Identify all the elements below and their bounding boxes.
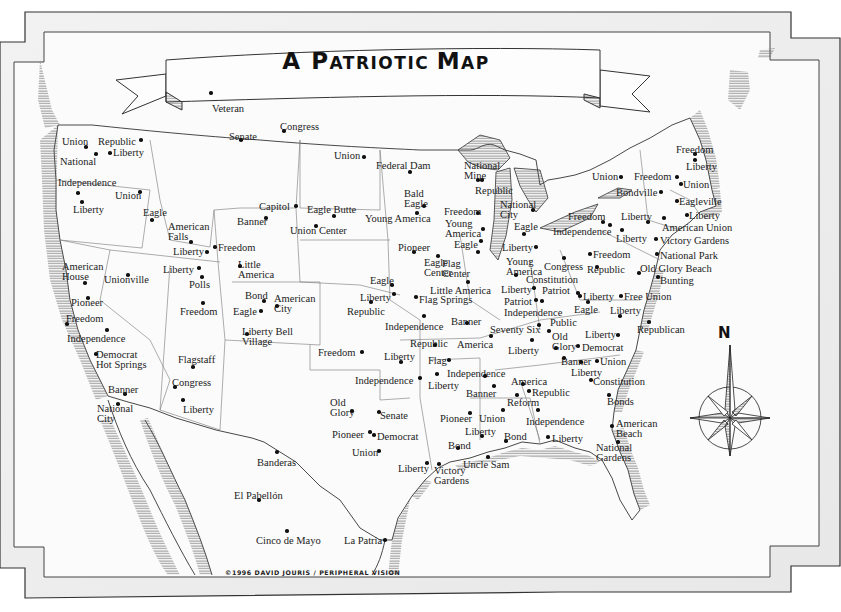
place-label: Independence: [58, 178, 116, 188]
city-dot-icon: [685, 213, 689, 217]
place-label: Young America: [365, 214, 431, 224]
city-dot-icon: [94, 152, 98, 156]
place-label: Polls: [189, 280, 210, 290]
place-label: Independence: [526, 417, 584, 427]
city-dot-icon: [181, 398, 185, 402]
place-label: Liberty: [73, 205, 104, 215]
place-label: Flag: [428, 356, 447, 366]
city-dot-icon: [465, 321, 469, 325]
city-dot-icon: [94, 352, 98, 356]
city-dot-icon: [377, 410, 381, 414]
compass-north-label: N: [718, 324, 731, 342]
city-dot-icon: [422, 204, 426, 208]
place-label: Independence: [447, 369, 505, 379]
city-dot-icon: [610, 424, 614, 428]
place-label: American City: [274, 294, 315, 314]
city-dot-icon: [264, 216, 268, 220]
city-dot-icon: [522, 232, 526, 236]
place-label: Seventy Six: [490, 325, 540, 335]
city-dot-icon: [418, 376, 422, 380]
city-dot-icon: [201, 301, 205, 305]
city-dot-icon: [693, 152, 697, 156]
city-dot-icon: [447, 358, 451, 362]
city-dot-icon: [189, 240, 193, 244]
place-label: Republic: [475, 186, 513, 196]
place-label: Freedom: [66, 314, 103, 324]
city-dot-icon: [285, 529, 289, 533]
place-label: Eagle: [143, 208, 167, 218]
city-dot-icon: [659, 190, 663, 194]
city-dot-icon: [501, 408, 505, 412]
city-dot-icon: [245, 332, 249, 336]
city-dot-icon: [489, 334, 493, 338]
city-dot-icon: [654, 237, 658, 241]
city-dot-icon: [619, 294, 623, 298]
city-dot-icon: [408, 170, 412, 174]
place-label: Liberty: [689, 211, 720, 221]
place-label: National: [60, 157, 96, 167]
place-label: Union: [334, 151, 360, 161]
city-dot-icon: [601, 220, 605, 224]
place-label: Pioneer: [332, 430, 364, 440]
city-dot-icon: [435, 372, 439, 376]
place-label: Union: [352, 448, 378, 458]
city-dot-icon: [546, 435, 550, 439]
city-dot-icon: [476, 178, 480, 182]
place-label: Young America: [445, 219, 481, 239]
place-label: American Falls: [168, 222, 209, 242]
city-dot-icon: [576, 344, 580, 348]
city-dot-icon: [492, 384, 496, 388]
place-label: Liberty: [163, 265, 194, 275]
city-dot-icon: [213, 245, 217, 249]
city-dot-icon: [481, 227, 485, 231]
city-dot-icon: [532, 286, 536, 290]
city-dot-icon: [456, 446, 460, 450]
city-dot-icon: [360, 350, 364, 354]
city-dot-icon: [616, 440, 620, 444]
city-dot-icon: [608, 223, 612, 227]
place-label: Liberty: [502, 243, 533, 253]
city-dot-icon: [197, 266, 201, 270]
city-dot-icon: [392, 292, 396, 296]
city-dot-icon: [480, 178, 484, 182]
city-dot-icon: [150, 218, 154, 222]
place-label: Federal Dam: [376, 161, 431, 171]
city-dot-icon: [412, 250, 416, 254]
place-label: Independence: [385, 322, 443, 332]
place-label: Cinco de Mayo: [256, 536, 321, 546]
city-dot-icon: [332, 214, 336, 218]
place-label: Flagstaff: [178, 355, 215, 365]
city-dot-icon: [262, 299, 266, 303]
place-label: Democrat: [377, 432, 418, 442]
city-dot-icon: [547, 329, 551, 333]
city-dot-icon: [655, 252, 659, 256]
city-dot-icon: [531, 208, 535, 212]
place-label: Liberty: [585, 330, 616, 340]
city-dot-icon: [399, 360, 403, 364]
place-label: Victory Gardens: [434, 466, 469, 486]
city-dot-icon: [275, 450, 279, 454]
city-dot-icon: [433, 343, 437, 347]
city-dot-icon: [534, 298, 538, 302]
place-label: National Gardens: [596, 443, 632, 463]
place-label: Democrat: [582, 343, 623, 353]
place-label: Old Glory Beach: [640, 264, 712, 274]
city-dot-icon: [656, 275, 660, 279]
place-label: Union: [600, 357, 626, 367]
place-label: Bondville: [616, 188, 657, 198]
city-dot-icon: [662, 216, 666, 220]
place-label: Flag Springs: [419, 295, 472, 305]
place-label: National Park: [660, 251, 718, 261]
place-label: Liberty: [173, 247, 204, 257]
city-dot-icon: [527, 389, 531, 393]
place-label: America: [511, 377, 547, 387]
city-dot-icon: [562, 356, 566, 360]
place-label: Republic: [98, 137, 136, 147]
place-label: Liberty: [501, 285, 532, 295]
place-label: Liberty: [686, 162, 717, 172]
city-dot-icon: [579, 360, 583, 364]
city-dot-icon: [476, 250, 480, 254]
city-dot-icon: [483, 374, 487, 378]
city-dot-icon: [425, 461, 429, 465]
city-dot-icon: [646, 220, 650, 224]
